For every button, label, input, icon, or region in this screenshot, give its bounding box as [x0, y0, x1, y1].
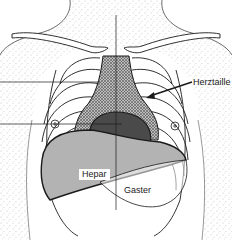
hepar-label: Hepar	[79, 169, 110, 180]
thorax-diagram	[0, 0, 232, 240]
herztaille-label: Herztaille	[193, 78, 231, 87]
gaster-label: Gaster	[124, 186, 151, 195]
